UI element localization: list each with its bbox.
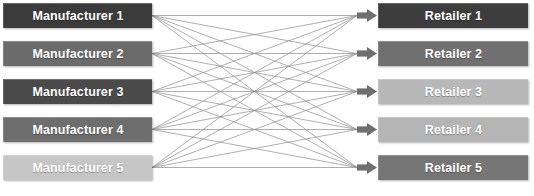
node-retailer-1[interactable]: Retailer 1 [378,3,528,28]
node-label: Retailer 3 [425,85,482,99]
node-label: Retailer 1 [425,9,482,23]
node-retailer-3[interactable]: Retailer 3 [378,79,528,104]
node-retailer-2[interactable]: Retailer 2 [378,41,528,66]
node-manufacturer-4[interactable]: Manufacturer 4 [3,117,152,142]
node-label: Manufacturer 4 [32,123,123,137]
node-manufacturer-2[interactable]: Manufacturer 2 [3,41,152,66]
supply-chain-network-diagram: Manufacturer 1Manufacturer 2Manufacturer… [0,0,534,196]
node-label: Retailer 5 [425,161,482,175]
node-label: Retailer 2 [425,47,482,61]
node-label: Manufacturer 2 [32,47,123,61]
node-retailer-4[interactable]: Retailer 4 [378,117,528,142]
node-layer: Manufacturer 1Manufacturer 2Manufacturer… [0,0,534,196]
node-manufacturer-3[interactable]: Manufacturer 3 [3,79,152,104]
node-label: Manufacturer 1 [32,9,123,23]
node-label: Retailer 4 [425,123,482,137]
node-manufacturer-5[interactable]: Manufacturer 5 [3,155,152,180]
node-label: Manufacturer 5 [32,161,123,175]
node-label: Manufacturer 3 [32,85,123,99]
node-retailer-5[interactable]: Retailer 5 [378,155,528,180]
node-manufacturer-1[interactable]: Manufacturer 1 [3,3,152,28]
